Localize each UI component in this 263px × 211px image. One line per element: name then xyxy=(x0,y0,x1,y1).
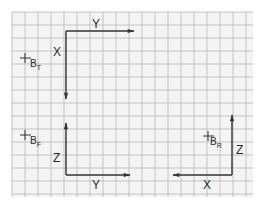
top-view-x-label: X xyxy=(53,45,61,59)
coordinate-diagram: Y X BT Z Y BF Z X BR xyxy=(0,0,263,211)
top-view-y-label: Y xyxy=(92,17,100,31)
front-view-y-label: Y xyxy=(92,178,100,192)
right-view-x-label: X xyxy=(203,178,211,192)
right-view-z-label: Z xyxy=(236,143,243,157)
graph-paper xyxy=(12,12,253,197)
front-view-z-label: Z xyxy=(53,151,60,165)
